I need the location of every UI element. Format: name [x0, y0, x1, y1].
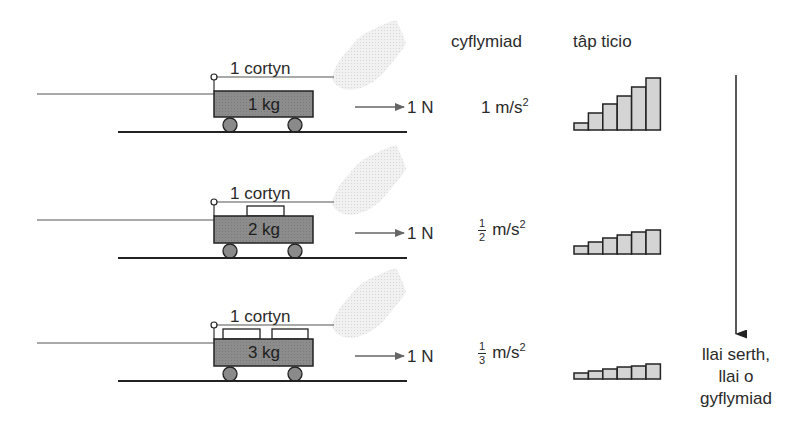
row-1-apparatus	[37, 20, 407, 132]
trend-note-line: gyflymiad	[686, 388, 786, 410]
row-3-apparatus	[37, 268, 407, 381]
tape-bar	[588, 242, 602, 254]
acceleration-exponent: 2	[523, 96, 529, 108]
pulley-icon	[211, 199, 217, 205]
string-label: 1 cortyn	[230, 185, 290, 202]
tape-bar	[574, 373, 588, 379]
tape-bar	[588, 371, 602, 379]
tape-bar	[646, 78, 660, 130]
wheel-icon	[223, 244, 237, 258]
mass-block	[223, 329, 260, 339]
acceleration-value: 1 3 m/s2	[478, 341, 526, 366]
ticker-tapes	[574, 78, 660, 379]
acceleration-fraction: 1 3	[478, 341, 486, 366]
acceleration-unit: m/s	[492, 220, 519, 239]
tape-bar	[646, 230, 660, 254]
wheel-icon	[288, 367, 302, 381]
pulley-icon	[211, 322, 217, 328]
tape-bar	[574, 246, 588, 254]
tape-bar	[632, 366, 646, 379]
tape-bar	[632, 232, 646, 254]
tape-bar	[617, 367, 631, 379]
tape-bar	[617, 96, 631, 130]
wheel-icon	[223, 118, 237, 132]
tape-bar	[646, 364, 660, 379]
tape-bar	[603, 104, 617, 130]
hand-icon	[332, 145, 406, 215]
mass-block	[247, 206, 284, 216]
tape-bar	[574, 123, 588, 130]
trend-note-line: llai serth,	[686, 344, 786, 366]
hand-icon	[332, 20, 406, 90]
header-acceleration: cyflymiad	[451, 33, 522, 50]
mass-label: 1 kg	[214, 96, 314, 113]
acceleration-exponent: 2	[520, 218, 526, 230]
tape-bar	[603, 369, 617, 379]
tape-bar	[603, 238, 617, 254]
string-label: 1 cortyn	[230, 60, 290, 77]
acceleration-fraction: 1 2	[478, 218, 486, 243]
mass-block	[272, 329, 308, 339]
acceleration-whole: 1	[481, 98, 490, 117]
acceleration-exponent: 2	[520, 341, 526, 353]
hand-icon	[332, 268, 406, 338]
force-label: 1 N	[407, 348, 433, 365]
trend-note: llai serth, llai o gyflymiad	[686, 344, 786, 410]
wheel-icon	[288, 244, 302, 258]
mass-label: 2 kg	[214, 221, 314, 238]
force-label: 1 N	[407, 225, 433, 242]
acceleration-unit: m/s	[495, 98, 522, 117]
string-label: 1 cortyn	[230, 308, 290, 325]
mass-label: 3 kg	[214, 344, 314, 361]
acceleration-value: 1 2 m/s2	[478, 218, 526, 243]
acceleration-value: 1 m/s2	[481, 97, 529, 116]
header-ticker-tape: tâp ticio	[573, 33, 632, 50]
force-label: 1 N	[407, 99, 433, 116]
wheel-icon	[288, 118, 302, 132]
acceleration-unit: m/s	[492, 343, 519, 362]
trend-note-line: llai o	[686, 366, 786, 388]
tape-bar	[632, 87, 646, 130]
tape-bar	[588, 113, 602, 130]
pulley-icon	[211, 74, 217, 80]
row-2-apparatus	[37, 145, 407, 258]
tape-bar	[617, 235, 631, 254]
wheel-icon	[223, 367, 237, 381]
